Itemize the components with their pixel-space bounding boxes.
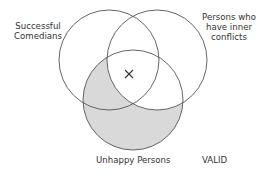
label-line: conflicts [199, 32, 259, 42]
label-line: Successful [12, 21, 64, 31]
label-line: Comedians [12, 31, 64, 41]
label-successful-comedians: Successful Comedians [12, 21, 64, 41]
venn-diagram: Successful Comedians Persons who have in… [0, 0, 260, 174]
label-persons-inner-conflicts: Persons who have inner conflicts [199, 12, 259, 42]
label-unhappy-persons: Unhappy Persons [96, 155, 171, 165]
verdict-label: VALID [202, 155, 227, 165]
label-line: Persons who [199, 12, 259, 22]
label-line: have inner [199, 22, 259, 32]
